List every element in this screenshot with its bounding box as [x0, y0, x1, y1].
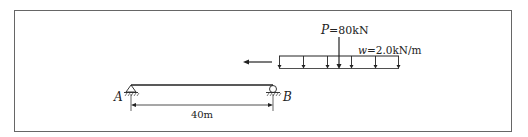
distributed-load-label: w=2.0kN/m — [358, 44, 422, 56]
point-load-label: P=80kN — [320, 23, 369, 37]
support-a-label: A — [113, 90, 123, 104]
support-b-label: B — [282, 90, 292, 104]
motion-direction-arrow — [243, 60, 272, 65]
span-label: 40m — [191, 109, 214, 120]
point-load-value: =80kN — [329, 24, 369, 37]
point-load-arrow — [337, 37, 342, 69]
distributed-load-value: =2.0kN/m — [367, 44, 422, 56]
support-b-roller — [266, 86, 281, 97]
support-a-pin — [124, 85, 139, 96]
distributed-load-symbol: w — [358, 44, 367, 56]
diagram-frame — [15, 11, 512, 132]
beam-diagram: P=80kN w=2.0kN/m A B 40m — [0, 0, 528, 137]
